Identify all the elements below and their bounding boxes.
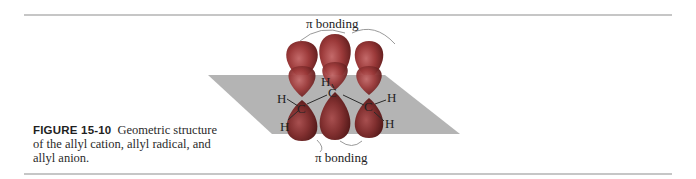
hydrogen-atom-label: H [280, 119, 289, 134]
hydrogen-atom-label: H [385, 116, 394, 131]
figure-label: FIGURE 15-10 [33, 124, 111, 136]
hydrogen-atom-label: H [277, 91, 286, 106]
pi-bonding-label-bottom: π bonding [315, 150, 368, 165]
pi-bonding-label-top: π bonding [306, 16, 359, 31]
pi-bond-arc-bottom-right [340, 141, 362, 146]
carbon-atom-label: C [364, 99, 373, 114]
figure-caption: FIGURE 15-10Geometric structure of the a… [33, 123, 223, 165]
hydrogen-atom-label: H [387, 90, 396, 105]
carbon-atom-label: C [297, 101, 306, 116]
carbon-atom-label: C [328, 85, 337, 100]
